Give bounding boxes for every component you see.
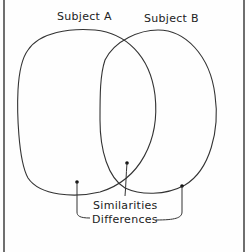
differences-label: Differences	[92, 213, 158, 226]
difference-a-pointer	[77, 182, 90, 218]
similarities-label: Similarities	[93, 199, 158, 212]
subject-a-label: Subject A	[57, 10, 112, 23]
subject-b-label: Subject B	[144, 12, 199, 25]
circle-subject-b	[100, 30, 216, 193]
circle-subject-a	[18, 30, 156, 196]
venn-diagram: Subject A Subject B Similarities Differe…	[0, 0, 249, 252]
venn-canvas: Subject A Subject B Similarities Differe…	[0, 0, 249, 252]
